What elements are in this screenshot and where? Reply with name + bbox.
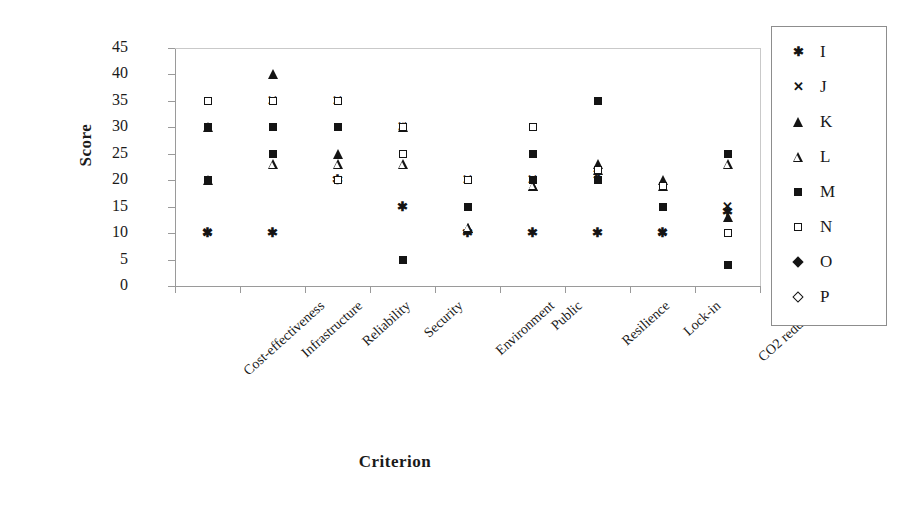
legend-label: N xyxy=(820,217,832,237)
legend: ✱I✕JKLMNOP xyxy=(771,26,887,326)
legend-label: M xyxy=(820,182,835,202)
x-tick-mark xyxy=(370,286,371,293)
triangle-open-marker-icon xyxy=(793,152,803,162)
square-filled-marker-icon xyxy=(794,188,802,196)
x-axis-title: Criterion xyxy=(0,452,790,472)
x-tick-mark xyxy=(435,286,436,293)
diamond-filled-marker-icon xyxy=(659,203,667,211)
x-tick-mark xyxy=(760,286,761,293)
plot-frame-top xyxy=(175,48,761,49)
legend-label: K xyxy=(820,112,832,132)
y-tick-mark xyxy=(168,260,175,261)
diamond-open-marker-icon xyxy=(399,123,407,131)
y-tick-mark xyxy=(168,48,175,49)
legend-label: I xyxy=(820,42,826,62)
diamond-open-marker-icon xyxy=(529,123,537,131)
triangle-open-marker-icon xyxy=(268,159,278,169)
y-tick-mark xyxy=(168,101,175,102)
y-tick-label: 25 xyxy=(94,144,128,162)
x-tick-mark xyxy=(305,286,306,293)
y-tick-mark xyxy=(168,286,175,287)
y-tick-mark xyxy=(168,74,175,75)
x-tick-mark xyxy=(500,286,501,293)
diamond-filled-marker-icon xyxy=(792,256,803,267)
legend-item-N[interactable]: N xyxy=(772,212,886,242)
y-tick-mark xyxy=(168,180,175,181)
square-filled-marker-icon xyxy=(724,150,732,158)
x-category-label-5: Public xyxy=(548,298,585,334)
square-filled-marker-icon xyxy=(204,123,212,131)
y-tick-label: 30 xyxy=(94,117,128,135)
diamond-filled-marker-icon xyxy=(269,123,277,131)
triangle-filled-marker-icon xyxy=(268,69,278,79)
diamond-open-marker-icon xyxy=(204,97,212,105)
legend-item-M[interactable]: M xyxy=(772,177,886,207)
x-tick-mark xyxy=(565,286,566,293)
square-filled-marker-icon xyxy=(594,97,602,105)
legend-marker-O xyxy=(772,247,820,277)
diamond-filled-marker-icon xyxy=(724,261,732,269)
diamond-filled-marker-icon xyxy=(529,176,537,184)
y-tick-label: 40 xyxy=(94,64,128,82)
triangle-filled-marker-icon xyxy=(723,212,733,222)
square-filled-marker-icon xyxy=(529,150,537,158)
diamond-open-marker-icon xyxy=(659,182,667,190)
y-tick-mark xyxy=(168,207,175,208)
legend-marker-J: ✕ xyxy=(772,72,820,102)
triangle-filled-marker-icon xyxy=(333,149,343,159)
y-tick-label: 10 xyxy=(94,223,128,241)
legend-item-I[interactable]: ✱I xyxy=(772,37,886,67)
square-open-marker-icon xyxy=(399,150,407,158)
diamond-filled-marker-icon xyxy=(399,256,407,264)
y-tick-mark xyxy=(168,154,175,155)
legend-label: J xyxy=(820,77,827,97)
diamond-filled-marker-icon xyxy=(204,176,212,184)
diamond-open-marker-icon xyxy=(724,229,732,237)
diamond-open-marker-icon xyxy=(334,97,342,105)
x-tick-mark xyxy=(695,286,696,293)
diamond-filled-marker-icon xyxy=(334,123,342,131)
chart-root: Score Criterion 051015202530354045 Cost-… xyxy=(0,0,901,509)
x-axis-line xyxy=(175,286,761,287)
x-category-label-3: Security xyxy=(420,298,465,341)
diamond-open-marker-icon xyxy=(269,97,277,105)
legend-label: O xyxy=(820,252,832,272)
y-axis-line xyxy=(175,48,176,286)
legend-marker-P xyxy=(772,282,820,312)
legend-label: L xyxy=(820,147,830,167)
y-tick-label: 20 xyxy=(94,170,128,188)
y-tick-label: 0 xyxy=(94,276,128,294)
diamond-filled-marker-icon xyxy=(464,203,472,211)
legend-marker-M xyxy=(772,177,820,207)
diamond-filled-marker-icon xyxy=(594,176,602,184)
x-category-label-4: Environment xyxy=(492,298,557,359)
x-category-label-7: Lock-in xyxy=(680,298,724,340)
diamond-open-marker-icon xyxy=(464,176,472,184)
x-tick-mark xyxy=(175,286,176,293)
triangle-open-marker-icon xyxy=(723,159,733,169)
y-tick-label: 45 xyxy=(94,38,128,56)
y-tick-mark xyxy=(168,233,175,234)
legend-item-L[interactable]: L xyxy=(772,142,886,172)
legend-marker-K xyxy=(772,107,820,137)
y-tick-label: 5 xyxy=(94,250,128,268)
triangle-open-marker-icon xyxy=(463,223,473,233)
triangle-filled-marker-icon xyxy=(793,117,803,127)
square-open-marker-icon xyxy=(334,176,342,184)
x-category-label-2: Reliability xyxy=(359,298,414,349)
triangle-open-marker-icon xyxy=(398,159,408,169)
square-open-marker-icon xyxy=(794,223,802,231)
diamond-open-marker-icon xyxy=(594,166,602,174)
legend-marker-I: ✱ xyxy=(772,37,820,67)
x-category-label-6: Resilience xyxy=(618,298,672,349)
legend-item-O[interactable]: O xyxy=(772,247,886,277)
legend-item-P[interactable]: P xyxy=(772,282,886,312)
legend-marker-L xyxy=(772,142,820,172)
y-tick-label: 35 xyxy=(94,91,128,109)
square-filled-marker-icon xyxy=(269,150,277,158)
y-tick-label: 15 xyxy=(94,197,128,215)
x-tick-mark xyxy=(630,286,631,293)
legend-marker-N xyxy=(772,212,820,242)
legend-item-J[interactable]: ✕J xyxy=(772,72,886,102)
legend-item-K[interactable]: K xyxy=(772,107,886,137)
